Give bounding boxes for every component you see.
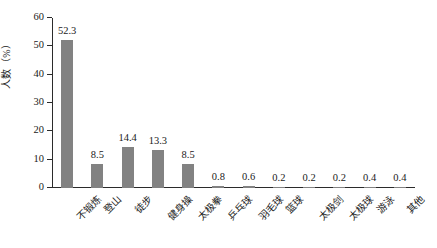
x-axis-labels: 不锻炼登山徒步健身操太极拳乒乓球羽毛球篮球太极剑太极球游泳其他 [52,190,415,248]
bar-value-label: 13.3 [149,135,167,147]
y-axis-tick: 20 [47,130,52,131]
bar-slot: 0.4 [385,18,415,188]
y-axis-tick: 50 [47,45,52,46]
x-label-slot: 其他 [385,190,415,248]
bar-value-label: 0.2 [272,172,285,184]
bar [394,187,406,188]
bar [182,164,194,188]
bar-value-label: 0.4 [393,172,406,184]
bar-value-label: 52.3 [58,25,76,37]
bar-value-label: 0.8 [212,171,225,183]
bar-slot: 0.2 [324,18,354,188]
bar-slot: 14.4 [113,18,143,188]
bar-value-label: 8.5 [91,149,104,161]
bar [303,187,315,188]
bar [364,187,376,188]
y-axis-tick-label: 50 [34,38,45,51]
y-axis-tick: 40 [47,74,52,75]
x-axis-tick-label: 其他 [404,193,427,216]
bar [152,150,164,188]
bar [91,164,103,188]
bar-value-label: 0.2 [333,172,346,184]
bar-value-label: 0.6 [242,171,255,183]
y-axis-tick-label: 40 [34,67,45,80]
bar [273,187,285,188]
x-label-slot: 羽毛球 [234,190,264,248]
bar-value-label: 0.2 [303,172,316,184]
y-axis-tick: 10 [47,159,52,160]
y-axis-title: 人数（%） [2,0,17,58]
y-axis-tick-label: 60 [34,10,45,23]
x-label-slot: 太极球 [324,190,354,248]
bar-slot: 0.2 [294,18,324,188]
bar [212,186,224,188]
bar [333,187,345,188]
bar-value-label: 0.4 [363,172,376,184]
y-axis-tick-label: 30 [34,95,45,108]
bar-slot: 8.5 [82,18,112,188]
x-label-slot: 健身操 [143,190,173,248]
y-axis-title-text: 人数（%） [0,38,13,89]
y-axis-tick: 60 [47,17,52,18]
x-label-slot: 太极拳 [173,190,203,248]
x-label-slot: 篮球 [264,190,294,248]
bar-slot: 0.6 [234,18,264,188]
x-label-slot: 登山 [82,190,112,248]
bar [122,147,134,188]
bar-slot: 0.8 [203,18,233,188]
bar-slot: 8.5 [173,18,203,188]
plot-area: 52.38.514.413.38.50.80.60.20.20.20.40.4 … [52,18,415,188]
x-label-slot: 不锻炼 [52,190,82,248]
bar-slot: 52.3 [52,18,82,188]
bar [243,186,255,188]
x-label-slot: 乒乓球 [203,190,233,248]
y-axis-tick-label: 10 [34,152,45,165]
x-label-slot: 游泳 [355,190,385,248]
bar-value-label: 14.4 [118,132,136,144]
bar-slot: 0.2 [264,18,294,188]
y-axis-tick: 0 [47,187,52,188]
bar-slot: 13.3 [143,18,173,188]
bar-value-label: 8.5 [182,149,195,161]
bar [61,40,73,188]
y-axis-tick: 30 [47,102,52,103]
bar-slot: 0.4 [355,18,385,188]
x-label-slot: 太极剑 [294,190,324,248]
y-axis-tick-label: 0 [39,180,44,193]
bar-chart: 人数（%） 52.38.514.413.38.50.80.60.20.20.20… [0,0,437,248]
x-label-slot: 徒步 [113,190,143,248]
y-axis-tick-label: 20 [34,123,45,136]
bars-container: 52.38.514.413.38.50.80.60.20.20.20.40.4 [52,18,415,188]
